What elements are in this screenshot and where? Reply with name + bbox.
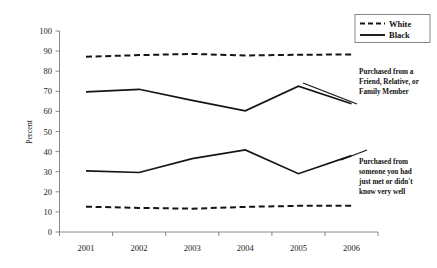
x-tick-label-2005: 2005: [290, 243, 307, 253]
y-tick-label-100: 100: [39, 26, 52, 36]
y-tick-label-60: 60: [44, 106, 53, 116]
x-tick-label-2006: 2006: [343, 243, 360, 253]
legend: White Black: [355, 15, 430, 43]
legend-label-black: Black: [389, 30, 410, 40]
annotation-bottom-line-2: someone you had: [359, 168, 412, 176]
annotation-top-line-1: Purchased from a: [359, 68, 414, 76]
annotation-bottom-line-4: know very well: [359, 188, 405, 196]
x-tick-label-2004: 2004: [237, 243, 255, 253]
line-chart: 100 90 80 70 60 50 40 30 20 10 0 Percent…: [0, 0, 437, 268]
x-tick-label-2003: 2003: [184, 243, 201, 253]
x-tick-label-2001: 2001: [78, 243, 95, 253]
annotation-top-line-3: Family Member: [359, 88, 410, 96]
annotation-bottom-line-1: Purchased from: [359, 158, 408, 166]
y-tick-label-80: 80: [44, 66, 53, 76]
x-tick-label-2002: 2002: [131, 243, 148, 253]
y-tick-label-20: 20: [44, 187, 53, 197]
y-tick-label-50: 50: [44, 127, 53, 137]
annotation-top-line-2: Friend, Relative, or: [359, 78, 420, 86]
y-axis-title: Percent: [25, 119, 34, 144]
y-tick-label-30: 30: [44, 167, 53, 177]
chart-figure: 100 90 80 70 60 50 40 30 20 10 0 Percent…: [0, 0, 437, 268]
y-tick-label-40: 40: [44, 147, 53, 157]
y-tick-label-90: 90: [44, 46, 53, 56]
annotation-bottom-line-3: just met or didn't: [358, 178, 413, 186]
y-tick-label-0: 0: [48, 227, 52, 237]
y-tick-label-10: 10: [44, 207, 53, 217]
legend-label-white: White: [389, 19, 411, 29]
y-tick-label-70: 70: [44, 86, 53, 96]
